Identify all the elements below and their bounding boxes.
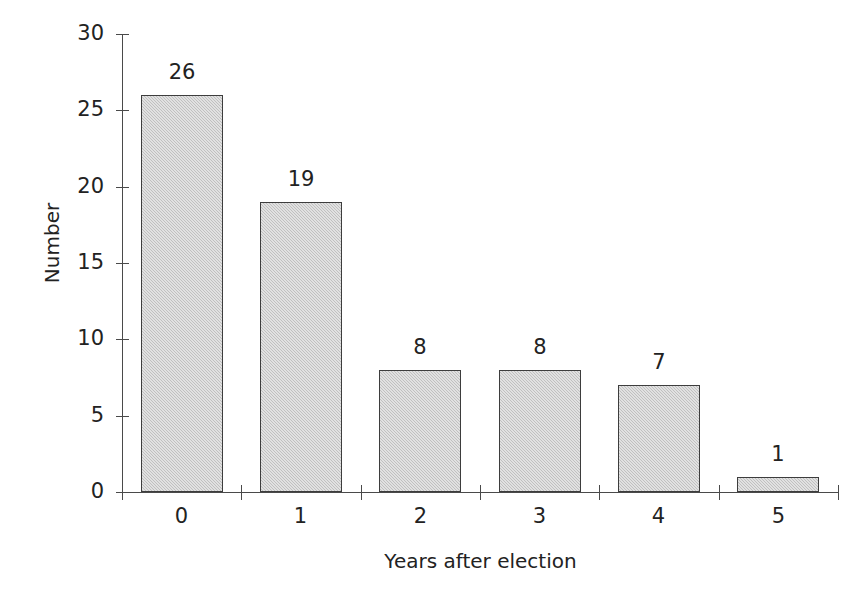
x-tick-label: 0 [122, 504, 241, 528]
x-tick-mark [599, 485, 600, 500]
bar-value-label: 8 [380, 337, 460, 358]
bar-value-label: 7 [619, 352, 699, 373]
y-tick-label: 15 [44, 252, 104, 273]
y-tick-label-text: 30 [44, 23, 104, 44]
y-tick-label: 20 [44, 176, 104, 197]
y-axis-title: Number [42, 183, 62, 303]
y-tick-mark [116, 110, 129, 111]
y-tick-mark [116, 416, 129, 417]
y-tick-label-text: 0 [44, 481, 104, 502]
bar-value-label: 26 [142, 62, 222, 83]
x-tick-mark [122, 485, 123, 500]
y-tick-mark [116, 34, 129, 35]
x-tick-label: 3 [480, 504, 599, 528]
x-tick-mark [719, 485, 720, 500]
bar [260, 202, 342, 492]
x-tick-mark [241, 485, 242, 500]
y-tick-label-text: 25 [44, 99, 104, 120]
bar-value-label: 1 [738, 444, 818, 465]
y-tick-label-text: 20 [44, 176, 104, 197]
bar [618, 385, 700, 492]
bar-chart: Number 051015202530 012345 26198871 Year… [0, 0, 866, 601]
x-tick-label: 2 [361, 504, 480, 528]
y-tick-label: 25 [44, 99, 104, 120]
y-tick-mark [116, 263, 129, 264]
y-tick-label: 10 [44, 328, 104, 349]
x-tick-mark [480, 485, 481, 500]
y-tick-mark [116, 187, 129, 188]
bar [737, 477, 819, 492]
y-tick-label-text: 10 [44, 328, 104, 349]
bar-value-label: 8 [500, 337, 580, 358]
x-tick-label: 5 [719, 504, 838, 528]
y-tick-mark [116, 339, 129, 340]
x-tick-label: 1 [241, 504, 360, 528]
bar [499, 370, 581, 492]
y-tick-label: 0 [44, 481, 104, 502]
x-tick-mark [361, 485, 362, 500]
x-tick-label: 4 [599, 504, 718, 528]
x-tick-mark [838, 485, 839, 500]
y-tick-label-text: 15 [44, 252, 104, 273]
y-tick-label: 5 [44, 405, 104, 426]
y-tick-label-text: 5 [44, 405, 104, 426]
x-axis-title: Years after election [122, 549, 839, 573]
bar [379, 370, 461, 492]
y-tick-label: 30 [44, 23, 104, 44]
bar [141, 95, 223, 492]
bar-value-label: 19 [261, 169, 341, 190]
